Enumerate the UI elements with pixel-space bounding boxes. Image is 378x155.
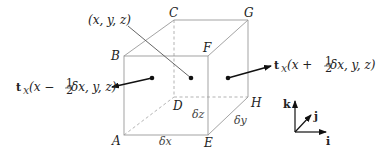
traction-left-post: δx, y, z) bbox=[71, 80, 117, 94]
edge-FG bbox=[208, 20, 248, 56]
coordinate-axes: k j i bbox=[283, 98, 330, 148]
i-axis-label: i bbox=[326, 135, 330, 148]
dimension-dy: δy bbox=[234, 114, 248, 127]
vertex-label-H: H bbox=[250, 96, 262, 110]
dimension-dz: δz bbox=[192, 108, 205, 121]
k-axis-label: k bbox=[283, 98, 291, 111]
traction-right-t: t bbox=[274, 59, 280, 72]
j-axis-arrow bbox=[295, 115, 311, 132]
vertex-label-B: B bbox=[110, 49, 120, 63]
volume-element-diagram: B C F G D H A E (x, y, z) δx δz δy t x (… bbox=[0, 0, 378, 155]
traction-right-post: δx, y, z) bbox=[330, 58, 376, 72]
traction-right-pre: (x + bbox=[287, 58, 312, 72]
center-point-label: (x, y, z) bbox=[88, 13, 131, 27]
edge-AD bbox=[124, 97, 174, 135]
vertex-label-A: A bbox=[111, 134, 121, 148]
vertex-label-G: G bbox=[244, 6, 254, 20]
vertex-label-D: D bbox=[172, 99, 183, 113]
dimension-dx: δx bbox=[159, 135, 173, 148]
traction-right-label: t x (x + 1 2 δx, y, z) bbox=[274, 54, 376, 75]
traction-left-arrow bbox=[112, 78, 152, 87]
traction-left-label: t x (x − 1 2 δx, y, z) bbox=[16, 76, 117, 97]
vertex-label-F: F bbox=[202, 41, 212, 55]
center-point bbox=[189, 76, 194, 81]
j-axis-label: j bbox=[313, 110, 318, 123]
vertex-label-C: C bbox=[169, 6, 178, 20]
center-pointer-line bbox=[128, 26, 191, 78]
front-face-ABFE bbox=[124, 56, 208, 135]
traction-left-pre: (x − bbox=[29, 80, 54, 94]
traction-left-t: t bbox=[16, 81, 22, 94]
traction-right-arrow bbox=[228, 66, 271, 78]
edge-BC bbox=[124, 20, 174, 56]
vertex-label-E: E bbox=[203, 136, 213, 150]
